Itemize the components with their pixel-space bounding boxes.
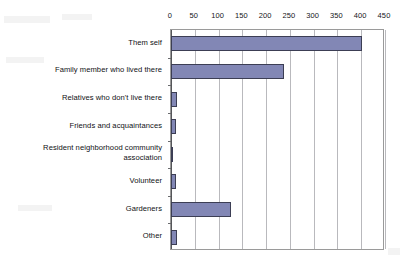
- x-tick-label-50: 50: [189, 11, 198, 21]
- category-tick: [168, 113, 171, 114]
- category-label: Volunteer: [0, 176, 162, 186]
- bar: [171, 202, 231, 217]
- bar: [171, 147, 173, 162]
- x-tick-label-100: 100: [211, 11, 224, 21]
- bar: [171, 92, 177, 107]
- bar: [171, 119, 176, 134]
- category-label: Friends and acquaintances: [0, 121, 162, 131]
- bar-chart: 050100150200250300350400450 Them selfFam…: [0, 0, 403, 263]
- x-tick-label-250: 250: [282, 11, 295, 21]
- category-axis-labels: Them selfFamily member who lived thereRe…: [0, 29, 166, 250]
- category-tick: [168, 196, 171, 197]
- x-tick-label-350: 350: [330, 11, 343, 21]
- scan-artifact: [388, 248, 400, 255]
- gridline-350: [337, 30, 338, 249]
- gridline-400: [361, 30, 362, 249]
- plot-area: [170, 29, 384, 250]
- bar: [171, 174, 176, 189]
- bar: [171, 230, 177, 245]
- category-label: Resident neighborhood community associat…: [0, 144, 162, 163]
- x-tick-label-200: 200: [259, 11, 272, 21]
- category-label: Relatives who don't live there: [0, 93, 162, 103]
- x-tick-label-300: 300: [306, 11, 319, 21]
- category-tick: [168, 85, 171, 86]
- category-tick: [168, 168, 171, 169]
- x-tick-label-0: 0: [168, 11, 172, 21]
- category-tick: [168, 58, 171, 59]
- category-tick: [168, 223, 171, 224]
- category-label: Them self: [0, 38, 162, 48]
- gridline-250: [290, 30, 291, 249]
- bar: [171, 36, 362, 51]
- gridline-450: [385, 30, 386, 249]
- x-tick-label-150: 150: [235, 11, 248, 21]
- x-tick-label-400: 400: [354, 11, 367, 21]
- category-tick: [168, 141, 171, 142]
- category-label: Other: [0, 231, 162, 241]
- x-tick-label-450: 450: [378, 11, 391, 21]
- gridline-300: [314, 30, 315, 249]
- x-axis-tick-labels: 050100150200250300350400450: [0, 11, 403, 24]
- category-label: Family member who lived there: [0, 66, 162, 76]
- gridline-200: [266, 30, 267, 249]
- bar: [171, 64, 284, 79]
- category-label: Gardeners: [0, 204, 162, 214]
- gridline-150: [242, 30, 243, 249]
